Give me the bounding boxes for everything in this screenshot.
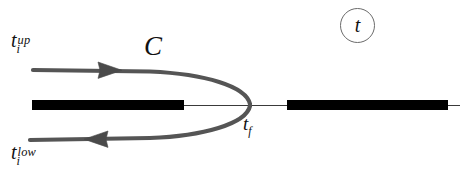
contour-upper-branch bbox=[33, 70, 250, 104]
label-initial-time-upper: tupi bbox=[11, 30, 17, 50]
contour-direction-arrow-lower bbox=[84, 131, 108, 147]
contour-diagram-canvas bbox=[0, 0, 460, 177]
axis-bar-left bbox=[32, 100, 184, 110]
axis-bar-right bbox=[287, 100, 448, 110]
label-final-time: tf bbox=[243, 114, 252, 138]
time-variable-badge-label: t bbox=[355, 15, 361, 35]
label-initial-time-lower-superscript: low bbox=[18, 146, 37, 158]
label-initial-time-lower-subscript: i bbox=[17, 155, 20, 167]
label-initial-time-lower: tlowi bbox=[11, 142, 17, 162]
label-final-time-subscript: f bbox=[248, 125, 251, 138]
label-initial-time-upper-subscript: i bbox=[17, 43, 20, 55]
label-contour-name: C bbox=[144, 33, 162, 60]
contour-lower-branch bbox=[30, 106, 250, 140]
time-variable-badge: t bbox=[340, 8, 375, 43]
contour-figure: tupi tlowi C tf t bbox=[0, 0, 460, 177]
contour-direction-arrow-upper bbox=[98, 62, 122, 78]
